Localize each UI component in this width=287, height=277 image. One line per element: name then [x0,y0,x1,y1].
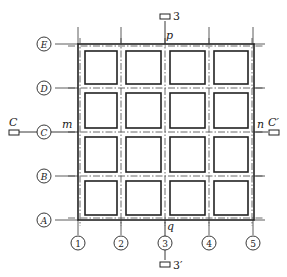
row-label-d: D [39,84,47,94]
section-marker-bottom [160,262,170,267]
row-label-c: C [41,128,48,138]
center-lines [68,38,264,226]
point-label-q: q [167,220,174,233]
point-label-m: m [62,118,72,131]
column-label-4: 4 [206,239,212,249]
point-label-n: n [257,118,264,131]
column-axis-labels: 1 2 3 4 5 [71,236,260,250]
row-label-a: A [40,216,48,226]
floor-plan-diagram: 3 3′ C C′ p q m n E D C B A 1 2 3 4 5 [0,0,287,277]
section-label-3: 3 [173,10,180,23]
point-label-p: p [166,29,173,42]
row-label-b: B [40,172,48,182]
column-label-1: 1 [75,239,81,249]
section-marker-right [269,130,279,135]
panels [85,51,248,215]
section-marker-top [160,14,170,19]
row-label-e: E [40,40,48,50]
section-label-c-prime: C′ [268,116,279,129]
section-label-3-prime: 3′ [173,259,183,272]
column-label-5: 5 [250,239,256,249]
axis-lines [55,27,265,235]
row-axis-labels: E D C B A [37,37,51,227]
section-label-c: C [9,116,18,129]
column-label-2: 2 [118,239,124,249]
column-label-3: 3 [162,239,168,249]
section-marker-left [9,130,19,135]
